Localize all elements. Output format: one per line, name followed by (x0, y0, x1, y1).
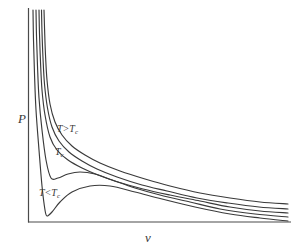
annotation-critical-text: T (55, 146, 61, 157)
annotation-critical: Tc (55, 147, 64, 157)
annotation-above-critical: T>Tc (57, 124, 78, 134)
isotherm-curve-2 (39, 10, 288, 213)
annotation-below-critical-text: T<T (39, 187, 57, 198)
annotation-below-critical: T<Tc (39, 188, 60, 198)
annotation-above-critical-text: T>T (57, 123, 75, 134)
x-axis-label: v (145, 231, 151, 244)
annotation-critical-subscript: c (61, 151, 64, 159)
annotation-above-critical-subscript: c (75, 128, 78, 136)
axes-group (28, 8, 291, 223)
isotherm-curve-3 (36, 10, 288, 217)
isotherm-curve-0 (44, 10, 288, 204)
annotation-below-critical-subscript: c (57, 192, 60, 200)
isotherm-curves-group (33, 10, 288, 221)
isotherm-curve-1 (42, 10, 289, 209)
y-axis-label: P (18, 112, 26, 125)
vdw-isotherm-figure: P v T>Tc Tc T<Tc (0, 0, 299, 252)
plot-canvas (0, 0, 299, 252)
